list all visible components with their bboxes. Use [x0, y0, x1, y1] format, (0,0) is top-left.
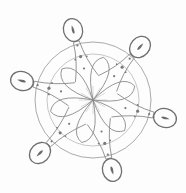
arm-outline [33, 81, 75, 106]
arm-dot [107, 154, 109, 156]
arm-outline [73, 41, 98, 82]
arm-dot [148, 113, 150, 115]
arm-dot [47, 87, 50, 90]
arm-dot [124, 107, 126, 109]
arm-dot [59, 131, 62, 134]
flame-icon [110, 166, 115, 175]
arm-dot [100, 130, 102, 132]
arm-dot [116, 63, 118, 65]
arm-outline [111, 94, 154, 118]
arm-dot [125, 71, 127, 73]
arm-dot [76, 44, 78, 46]
arm-outline [99, 54, 135, 92]
arm-dot [48, 93, 50, 95]
flame-icon [136, 42, 144, 50]
flame-icon [17, 78, 26, 83]
arm-dot [121, 66, 124, 69]
arm-dot [129, 58, 131, 60]
arm-dot [68, 123, 70, 125]
flame-icon [36, 149, 44, 157]
arm-dot [98, 143, 100, 145]
arm-dot [37, 84, 39, 86]
arm-dot [60, 90, 62, 92]
arm-outline [87, 118, 112, 159]
arm-dot [134, 116, 136, 118]
arm-dot [83, 67, 85, 69]
arm-dot [79, 55, 82, 58]
flame-icon [161, 116, 170, 121]
arm-dot [51, 140, 53, 142]
rangoli-drawing [0, 0, 186, 193]
arm-dot [65, 135, 67, 137]
arm-dot [137, 104, 139, 106]
arm-dot [56, 127, 58, 129]
flame-icon [70, 25, 75, 34]
arm-dot [103, 142, 106, 145]
arm-dot [74, 59, 76, 61]
arm-dot [113, 75, 115, 77]
arm-dot [51, 82, 53, 84]
drawing-canvas [0, 0, 186, 193]
arm-dot [109, 140, 111, 142]
arm-dot [136, 110, 139, 113]
arm-dot [86, 55, 88, 57]
